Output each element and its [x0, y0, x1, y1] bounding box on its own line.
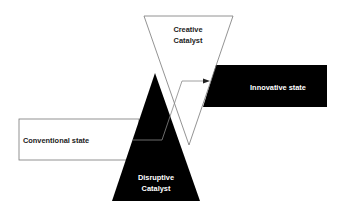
disruptive-catalyst-label-1: Disruptive: [138, 173, 174, 182]
disruptive-catalyst-label-2: Catalyst: [142, 184, 171, 193]
innovative-state-label: Innovative state: [250, 83, 306, 92]
creative-catalyst-label-1: Creative: [173, 25, 202, 34]
innovation-diagram: Creative Catalyst Innovative state Conve…: [0, 0, 342, 212]
creative-catalyst-label-2: Catalyst: [174, 36, 203, 45]
conventional-state-label: Conventional state: [23, 136, 89, 145]
